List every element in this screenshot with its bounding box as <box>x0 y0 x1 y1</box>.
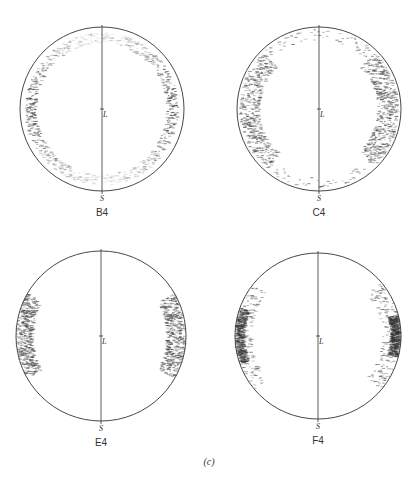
center-label-l: L <box>320 110 324 119</box>
figure-caption: (c) <box>203 456 214 467</box>
pole-figure-canvas <box>0 0 419 479</box>
pole-figure-c4 <box>237 25 401 194</box>
bottom-label-s: S <box>99 424 103 433</box>
panel-label-b4: B4 <box>96 207 108 218</box>
center-label-l: L <box>102 337 106 346</box>
bottom-label-s: S <box>100 194 104 203</box>
bottom-label-s: S <box>317 194 321 203</box>
panel-label-c4: C4 <box>313 207 326 218</box>
pole-figure-b4 <box>20 25 184 194</box>
center-label-l: L <box>103 110 107 119</box>
pole-figure-e4 <box>16 249 187 424</box>
bottom-label-s: S <box>316 422 320 431</box>
panel-label-f4: F4 <box>312 435 324 446</box>
center-label-l: L <box>319 337 323 346</box>
panel-label-e4: E4 <box>95 437 107 448</box>
